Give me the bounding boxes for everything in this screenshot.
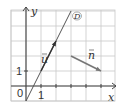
axes: [11, 7, 116, 101]
grid: [11, 10, 115, 101]
vector-diagram: y x 0 1 1 u n D: [0, 0, 119, 108]
x-axis-label: x: [108, 91, 115, 104]
y-unit-label: 1: [16, 65, 22, 77]
grid-border: [11, 10, 115, 101]
line-d-label: D: [73, 12, 81, 21]
vector-n-label: n: [88, 49, 95, 62]
x-unit-label: 1: [38, 89, 44, 101]
origin-label: 0: [17, 87, 23, 99]
vector-u-label: u: [41, 53, 48, 66]
y-axis-label: y: [30, 5, 38, 18]
